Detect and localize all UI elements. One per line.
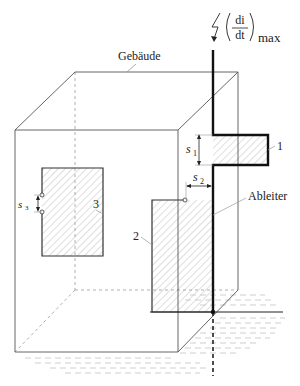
dimension-s2: s 2 bbox=[186, 170, 212, 200]
label-loop-1: 1 bbox=[277, 139, 283, 153]
lightning-arrowhead bbox=[211, 36, 217, 42]
diagram-canvas: di dt max Gebäude Ableiter 1 2 3 s 1 s 2 bbox=[0, 0, 300, 386]
loop-2-terminal bbox=[183, 198, 187, 202]
loop-1-area bbox=[213, 135, 268, 165]
svg-text:s: s bbox=[186, 142, 191, 156]
label-building: Gebäude bbox=[118, 49, 161, 63]
formula-di-dt-max: di dt max bbox=[227, 13, 281, 45]
svg-text:s: s bbox=[193, 170, 198, 184]
dimension-s1: s 1 bbox=[186, 134, 213, 166]
down-conductor bbox=[213, 50, 268, 312]
formula-numerator: di bbox=[235, 13, 245, 27]
lightning-icon bbox=[212, 13, 220, 39]
leader-building bbox=[127, 64, 136, 72]
leader-conductor bbox=[213, 198, 246, 215]
formula-subscript: max bbox=[258, 30, 281, 45]
svg-text:s: s bbox=[18, 198, 22, 210]
label-loop-3: 3 bbox=[93, 197, 99, 211]
loop-3-area bbox=[42, 168, 103, 256]
formula-denominator: dt bbox=[235, 28, 245, 42]
loop-2-area bbox=[152, 200, 213, 312]
svg-text:1: 1 bbox=[193, 149, 197, 158]
label-conductor: Ableiter bbox=[248, 189, 287, 203]
svg-text:2: 2 bbox=[200, 177, 204, 186]
conductor-junction bbox=[211, 310, 215, 314]
svg-text:3: 3 bbox=[25, 204, 29, 212]
label-loop-2: 2 bbox=[133, 229, 139, 243]
dimension-s3: s 3 bbox=[18, 195, 42, 212]
